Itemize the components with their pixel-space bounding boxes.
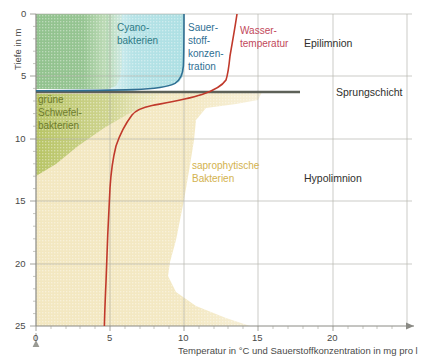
annotation-saprophytic-line1: saprophytische bbox=[192, 160, 259, 173]
chart-figure: 0 5 10 15 20 25 0 5 10 15 20 Tiefe in m … bbox=[0, 0, 423, 361]
annotation-cyanobacteria-line1: Cyano- bbox=[117, 22, 149, 35]
x-tick-20: 20 bbox=[327, 332, 338, 343]
layer-label-epilimnion: Epilimnion bbox=[304, 37, 352, 49]
annotation-oxygen-line2: stoff- bbox=[188, 35, 210, 48]
annotation-saprophytic-line2: Bakterien bbox=[192, 173, 234, 186]
y-tick-15: 15 bbox=[15, 195, 26, 206]
x-tick-5: 5 bbox=[107, 332, 112, 343]
annotation-green-sulfur-line3: bakterien bbox=[38, 120, 79, 133]
x-axis-title: Temperatur in °C und Sauerstoffkonzentra… bbox=[178, 345, 418, 356]
annotation-oxygen-line4: tration bbox=[188, 61, 216, 74]
y-tick-20: 20 bbox=[15, 258, 26, 269]
y-tick-5: 5 bbox=[21, 70, 26, 81]
zone-algae-texture bbox=[36, 14, 122, 89]
y-tick-10: 10 bbox=[15, 133, 26, 144]
y-axis-title: Tiefe in m bbox=[12, 29, 23, 70]
y-tick-25: 25 bbox=[15, 320, 26, 331]
annotation-water-temperature-line2: temperatur bbox=[240, 38, 288, 51]
layer-label-sprungschicht: Sprungschicht bbox=[336, 86, 403, 98]
x-tick-10: 10 bbox=[178, 332, 189, 343]
annotation-green-sulfur-line2: Schwefel- bbox=[38, 107, 82, 120]
y-tick-0: 0 bbox=[21, 8, 26, 19]
x-tick-15: 15 bbox=[252, 332, 263, 343]
x-tick-0: 0 bbox=[33, 332, 38, 343]
annotation-green-sulfur-line1: grüne bbox=[38, 94, 64, 107]
y-axis bbox=[30, 14, 36, 326]
x-axis bbox=[33, 323, 414, 347]
annotation-oxygen-line3: konzen- bbox=[188, 48, 224, 61]
annotation-water-temperature-line1: Wasser- bbox=[240, 25, 277, 38]
annotation-cyanobacteria-line2: bakterien bbox=[117, 35, 158, 48]
layer-label-hypolimnion: Hypolimnion bbox=[304, 172, 362, 184]
annotation-oxygen-line1: Sauer- bbox=[188, 22, 218, 35]
